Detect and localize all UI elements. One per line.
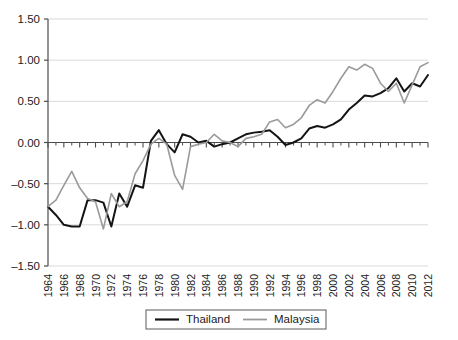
y-tick-label: –1.50 — [11, 260, 40, 272]
x-tick-label: 1966 — [58, 274, 70, 298]
chart-container: 1.501.000.500.00–0.50–1.00–1.50196419661… — [0, 0, 458, 340]
line-chart: 1.501.000.500.00–0.50–1.00–1.50196419661… — [0, 0, 458, 340]
x-tick-label: 2012 — [422, 274, 434, 298]
x-tick-label: 1978 — [153, 274, 165, 298]
series-line-thailand — [48, 75, 428, 226]
x-tick-label: 1982 — [185, 274, 197, 298]
legend-label-thailand: Thailand — [186, 313, 230, 325]
x-tick-label: 2000 — [327, 274, 339, 298]
x-tick-label: 1984 — [200, 274, 212, 298]
x-tick-label: 2008 — [390, 274, 402, 298]
x-tick-label: 1964 — [42, 274, 54, 298]
x-tick-label: 1996 — [295, 274, 307, 298]
series-line-malaysia — [48, 63, 428, 229]
y-tick-label: 1.00 — [18, 54, 40, 66]
x-tick-label: 1972 — [105, 274, 117, 298]
x-tick-label: 1976 — [137, 274, 149, 298]
y-tick-label: –0.50 — [11, 178, 40, 190]
x-tick-label: 1994 — [280, 274, 292, 298]
x-tick-label: 1974 — [121, 274, 133, 298]
x-tick-label: 1990 — [248, 274, 260, 298]
x-tick-label: 2002 — [343, 274, 355, 298]
y-tick-label: 0.50 — [18, 95, 40, 107]
x-tick-label: 2004 — [359, 274, 371, 298]
x-tick-label: 1980 — [169, 274, 181, 298]
x-tick-label: 1998 — [311, 274, 323, 298]
x-tick-label: 1970 — [90, 274, 102, 298]
x-tick-label: 1992 — [264, 274, 276, 298]
legend-label-malaysia: Malaysia — [274, 313, 320, 325]
y-tick-label: 1.50 — [18, 13, 40, 25]
x-tick-label: 2010 — [406, 274, 418, 298]
x-tick-label: 1968 — [74, 274, 86, 298]
x-tick-label: 1988 — [232, 274, 244, 298]
x-tick-label: 1986 — [216, 274, 228, 298]
y-tick-label: –1.00 — [11, 219, 40, 231]
x-tick-label: 2006 — [375, 274, 387, 298]
y-tick-label: 0.00 — [18, 137, 40, 149]
